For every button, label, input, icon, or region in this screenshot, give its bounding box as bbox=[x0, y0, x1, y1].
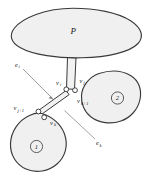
leader-line-ei bbox=[23, 69, 53, 99]
region-one-label: 1 bbox=[35, 143, 38, 150]
figure-container: P 2 1 v i v j v bbox=[0, 0, 152, 180]
vertex-label-vj-base: v bbox=[80, 77, 83, 84]
edge-label-ek-base: e bbox=[96, 139, 99, 146]
vertex-label-vi: v i bbox=[56, 79, 62, 88]
vertex-label-vj: v j bbox=[80, 77, 86, 86]
vertex-label-vj1-base: v bbox=[14, 104, 17, 111]
vertex-label-vk-base: v bbox=[50, 119, 53, 126]
vertex-label-vi-base: v bbox=[56, 79, 59, 86]
vertex-node-vj1 bbox=[36, 109, 41, 114]
vertex-node-vj bbox=[73, 88, 78, 93]
edge-label-ei-sub: i bbox=[19, 64, 21, 69]
region-one-shape bbox=[10, 113, 66, 171]
edge-label-ek: e k bbox=[96, 139, 103, 148]
vertex-label-vj1-sub: j+1 bbox=[16, 108, 24, 113]
bridge-p-to-junction bbox=[67, 58, 77, 90]
edge-label-ek-sub: k bbox=[100, 143, 103, 148]
vertex-label-vj1: v j+1 bbox=[14, 104, 25, 113]
edge-label-ei-base: e bbox=[15, 61, 18, 68]
vertex-node-vi bbox=[64, 87, 69, 92]
diagram-canvas: P 2 1 v i v j v bbox=[0, 0, 152, 180]
region-p-shape bbox=[11, 8, 141, 58]
leader-arrow-ei bbox=[49, 96, 54, 100]
vertex-label-vk1-sub: k+1 bbox=[81, 101, 88, 106]
region-p-label: P bbox=[70, 26, 77, 36]
vertex-node-vk bbox=[42, 115, 47, 120]
vertex-label-vk1-base: v bbox=[77, 97, 80, 104]
vertex-label-vi-sub: i bbox=[60, 82, 62, 87]
edge-label-ei: e i bbox=[15, 61, 21, 70]
